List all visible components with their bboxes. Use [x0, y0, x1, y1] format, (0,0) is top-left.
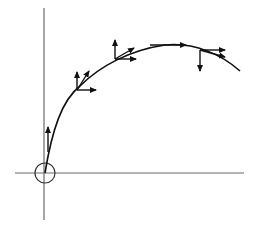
point-5 — [200, 50, 225, 71]
tangent-velocity-arrow-icon — [77, 71, 89, 90]
trajectory-curve — [45, 45, 240, 173]
tangent-velocity-arrow-icon — [200, 50, 225, 57]
velocity-vectors — [48, 40, 225, 152]
projectile-diagram — [0, 0, 259, 231]
